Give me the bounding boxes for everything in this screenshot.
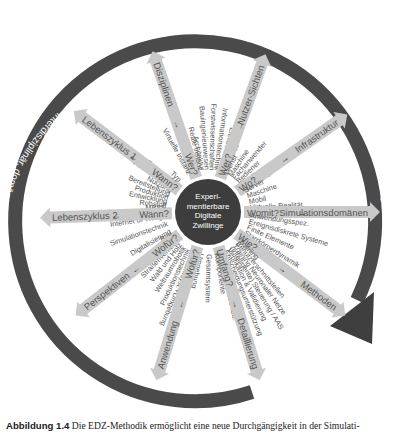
caption-label: Abbildung 1.4 [6,420,69,431]
spoke-label: Perspektiven [82,270,132,312]
center-node: Experi-mentierbareDigitaleZwillinge [175,179,241,245]
outer-ring-arrowhead-icon [330,292,374,344]
spoke-label: Methoden [299,278,339,312]
figure-caption: Abbildung 1.4 Die EDZ-Methodik ermöglich… [6,420,416,431]
edz-method-diagram: Experimentierbare Digitale Zwillinge int… [0,0,416,412]
spoke-simulationsdomaenen: Womit?→SimulationsdomänenAnwendungsspez.… [239,202,380,270]
spoke-label: Anwendung [155,319,180,370]
spoke-question: Wann? [139,208,169,220]
spoke-label: Infrastruktur [293,117,341,155]
caption-text: Die EDZ-Methodik ermöglicht eine neue Du… [72,420,360,431]
spoke-label: Lebenszyklus 2 [52,210,118,223]
spoke-label: Nutzer-Sichten [235,64,267,127]
spoke-lebenszyklus-2: Wann?←Lebenszyklus 2RohstoffEntwicklungP… [38,156,181,228]
spoke-label: Lebenszyklus 1 [80,114,139,162]
spoke-label: Disziplinen [151,61,176,108]
